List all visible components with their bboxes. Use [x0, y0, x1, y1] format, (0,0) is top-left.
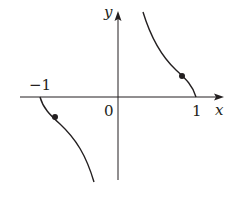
left-branch-point — [52, 114, 58, 120]
x-axis-label: x — [215, 103, 223, 118]
graph-canvas — [0, 0, 239, 212]
tick-label-one: 1 — [192, 104, 202, 119]
y-axis-label: y — [104, 5, 112, 20]
right-branch-point — [179, 73, 185, 79]
left-branch-curve — [40, 97, 94, 182]
origin-label: 0 — [104, 104, 114, 119]
right-branch-curve — [143, 12, 196, 97]
tick-label-neg-one: −1 — [29, 78, 51, 93]
